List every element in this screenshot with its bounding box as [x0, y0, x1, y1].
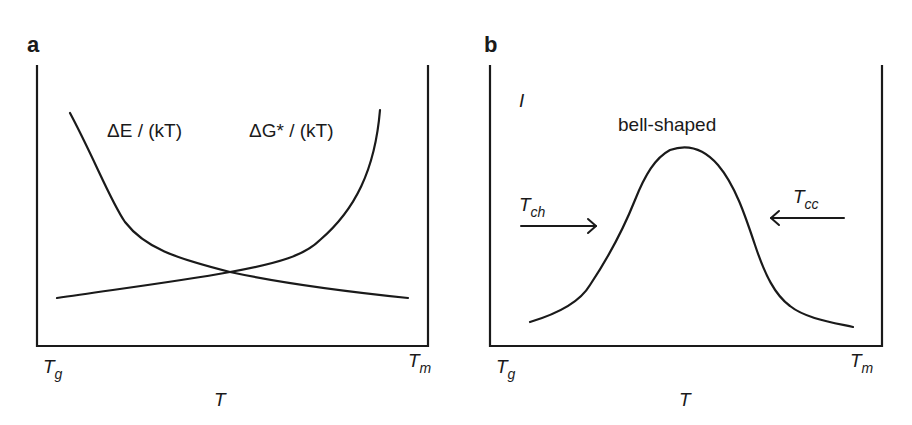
tick-tm-a: Tm: [408, 350, 432, 376]
tick-tm-b: Tm: [850, 350, 874, 376]
ylabel-i: I: [519, 90, 525, 111]
bell-curve: [530, 147, 853, 327]
tch-arrow: [521, 219, 596, 233]
xlabel-b: T: [679, 389, 692, 410]
tick-tg-b: Tg: [496, 356, 516, 382]
tick-tg-a: Tg: [43, 356, 63, 382]
panel-b: b I bell-shaped Tch Tcc Tg Tm T: [484, 32, 882, 410]
delta-e-label: ΔE / (kT): [107, 120, 182, 141]
bell-shaped-label: bell-shaped: [618, 114, 716, 135]
panel-a: a ΔE / (kT) ΔG* / (kT) Tg Tm T: [27, 32, 432, 410]
panel-b-letter: b: [484, 32, 497, 57]
panel-a-frame: [37, 65, 428, 346]
panel-b-frame: [490, 65, 882, 346]
panel-a-letter: a: [27, 32, 40, 57]
tch-label: Tch: [519, 194, 546, 220]
tcc-label: Tcc: [793, 186, 819, 212]
delta-g-label: ΔG* / (kT): [249, 120, 333, 141]
figure: a ΔE / (kT) ΔG* / (kT) Tg Tm T b I bell-…: [0, 0, 912, 425]
tcc-arrow: [771, 211, 844, 225]
xlabel-a: T: [214, 389, 227, 410]
